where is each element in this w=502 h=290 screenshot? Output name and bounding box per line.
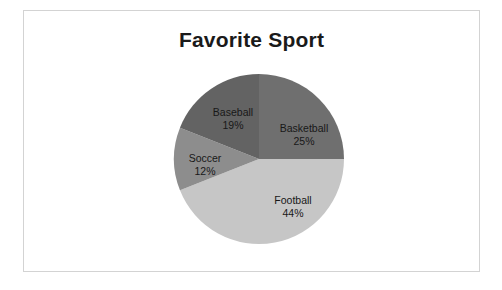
screenshot-root: Favorite Sport Baseball 19% Basketball 2… [0,0,502,290]
chart-title: Favorite Sport [24,28,479,52]
pie-svg [164,64,354,254]
chart-frame: Favorite Sport Baseball 19% Basketball 2… [23,10,480,272]
pie-chart: Baseball 19% Basketball 25% Soccer 12% F… [164,64,354,254]
pie-slice-basketball[interactable] [259,74,344,159]
